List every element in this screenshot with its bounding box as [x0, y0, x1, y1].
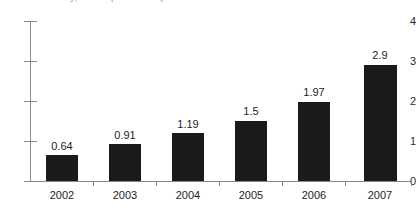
y-tick-1: [24, 141, 37, 142]
bar-2007: [364, 65, 397, 181]
bar-chart-figure: …urance industry, 2002-07 (million kuna)…: [0, 0, 416, 212]
y-tick-label-0: 0: [396, 176, 416, 187]
bar-2003: [109, 144, 141, 180]
x-tick-3: [219, 181, 220, 186]
x-category-label-2007: 2007: [358, 190, 402, 201]
bar-value-2007: 2.9: [358, 50, 402, 61]
y-tick-4: [24, 21, 37, 22]
x-tick-4: [282, 181, 283, 186]
bar-2004: [172, 133, 204, 181]
x-category-label-2004: 2004: [166, 190, 210, 201]
bar-value-2003: 0.91: [103, 130, 147, 141]
y-tick-label-1: 1: [396, 136, 416, 147]
y-tick-label-4: 4: [396, 16, 416, 27]
x-category-label-2002: 2002: [40, 190, 84, 201]
plot-area: 4 3 2 1 0 0.64 0.91 1.19 1.5 1.97 2.9 20…: [0, 0, 416, 212]
y-tick-2: [24, 101, 37, 102]
x-category-label-2005: 2005: [229, 190, 273, 201]
bar-2006: [298, 102, 330, 181]
x-category-label-2006: 2006: [292, 190, 336, 201]
x-category-label-2003: 2003: [103, 190, 147, 201]
x-tick-1: [93, 181, 94, 186]
bar-value-2002: 0.64: [40, 141, 84, 152]
bar-value-2004: 1.19: [166, 119, 210, 130]
y-tick-0: [24, 181, 37, 182]
bar-2002: [46, 155, 78, 181]
bar-value-2005: 1.5: [229, 106, 273, 117]
bar-value-2006: 1.97: [292, 87, 336, 98]
x-axis-line: [30, 181, 412, 182]
x-tick-6: [411, 181, 412, 186]
bar-2005: [235, 121, 267, 181]
x-tick-5: [345, 181, 346, 186]
y-tick-label-2: 2: [396, 96, 416, 107]
y-tick-3: [24, 61, 37, 62]
x-tick-2: [156, 181, 157, 186]
